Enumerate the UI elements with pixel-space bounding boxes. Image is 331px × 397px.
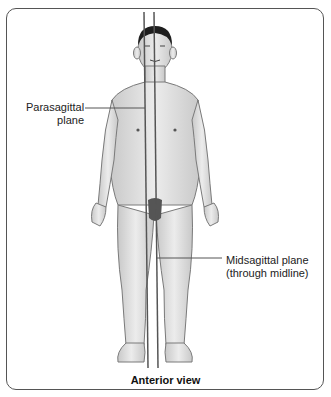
right-foot bbox=[118, 343, 145, 362]
figure-caption: Anterior view bbox=[0, 374, 331, 386]
anatomy-figure bbox=[0, 0, 331, 397]
left-leg bbox=[156, 205, 193, 345]
midsagittal-plane-label: Midsagittal plane (through midline) bbox=[226, 254, 326, 280]
midsagittal-label-line2: (through midline) bbox=[226, 267, 326, 280]
left-hand bbox=[204, 203, 219, 226]
parasagittal-label-line1: Parasagittal bbox=[26, 101, 84, 114]
left-foot bbox=[165, 343, 192, 362]
midsagittal-label-line1: Midsagittal plane bbox=[226, 254, 326, 267]
parasagittal-plane-label: Parasagittal plane bbox=[26, 101, 84, 127]
right-leg bbox=[118, 205, 155, 345]
parasagittal-label-line2: plane bbox=[26, 114, 84, 127]
right-hand bbox=[92, 203, 107, 226]
genitals bbox=[148, 198, 162, 221]
